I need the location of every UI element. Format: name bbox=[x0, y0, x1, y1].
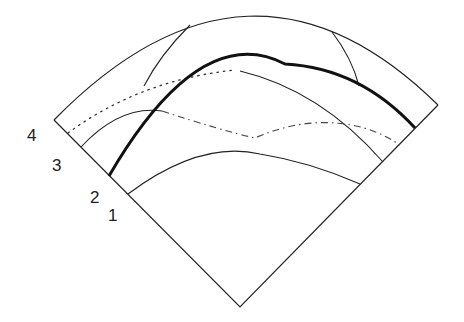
dotted-curve bbox=[68, 70, 235, 133]
label-4: 4 bbox=[27, 127, 36, 144]
upper-left-segment bbox=[144, 25, 190, 86]
label-1: 1 bbox=[108, 207, 117, 224]
label-2: 2 bbox=[90, 189, 99, 206]
diagram-canvas bbox=[0, 0, 464, 322]
dash-dot-curve bbox=[162, 111, 400, 145]
label-3: 3 bbox=[52, 157, 61, 174]
outer-arc bbox=[54, 16, 438, 120]
thick-curve bbox=[109, 54, 415, 176]
lowest-arc bbox=[128, 151, 360, 194]
